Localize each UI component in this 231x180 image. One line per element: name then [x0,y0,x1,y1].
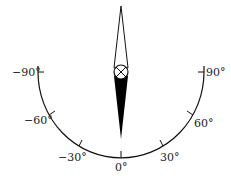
pivot-icon [114,65,128,79]
needle-south [114,76,128,139]
label-pos30: 30° [160,151,180,164]
label-pos90: 90° [206,66,226,79]
label-pos60: 60° [194,117,214,130]
needle-north [114,6,128,68]
label-neg90: −90° [12,66,41,79]
compass-diagram: −90° 90° −60° 60° −30° 30° 0° [0,0,231,180]
label-neg30: −30° [58,151,87,164]
label-zero: 0° [115,161,128,174]
label-neg60: −60° [24,114,53,127]
